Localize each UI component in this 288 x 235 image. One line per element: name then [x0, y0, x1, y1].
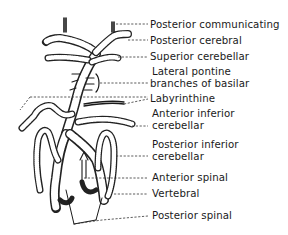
brainstem-artery-diagram	[0, 0, 288, 235]
label-superior-cerebellar: Superior cerebellar	[150, 51, 249, 62]
hook-branches	[60, 182, 96, 203]
labyrinthine-arteries	[84, 101, 124, 106]
label-posterior-inferior-line2: cerebellar	[152, 151, 204, 162]
artery-drawing	[22, 18, 132, 224]
label-posterior-inferior-line1: Posterior inferior	[152, 139, 239, 150]
label-posterior-spinal: Posterior spinal	[152, 210, 232, 221]
posterior-cerebral-arteries	[46, 34, 128, 52]
label-anterior-spinal: Anterior spinal	[152, 172, 228, 183]
label-lateral-pontine-line1: Lateral pontine	[152, 66, 231, 77]
anterior-spinal-artery	[80, 152, 88, 180]
label-posterior-cerebral: Posterior cerebral	[150, 35, 242, 46]
label-anterior-inferior-line2: cerebellar	[152, 120, 204, 131]
label-vertebral: Vertebral	[152, 188, 200, 199]
label-anterior-inferior-line1: Anterior inferior	[152, 108, 235, 119]
label-lateral-pontine-line2: branches of basilar	[150, 78, 249, 89]
posterior-communicating-arteries	[64, 18, 114, 32]
label-labyrinthine: Labyrinthine	[150, 93, 215, 104]
superior-cerebellar-arteries	[48, 57, 118, 62]
label-posterior-communicating: Posterior communicating	[150, 19, 280, 30]
posterior-spinal-arteries	[66, 190, 102, 224]
